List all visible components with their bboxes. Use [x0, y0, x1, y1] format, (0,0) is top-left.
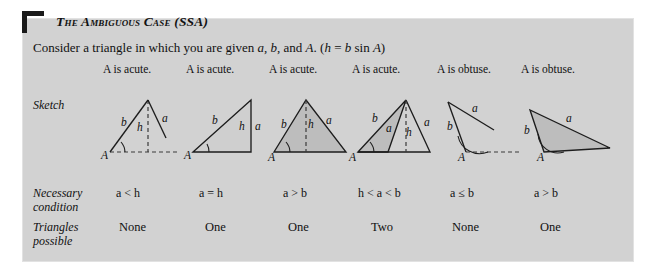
- condition-case-2: a = h: [199, 186, 223, 201]
- case-heading-2: A is acute.: [186, 63, 234, 75]
- side-label-h-2: h: [239, 120, 245, 132]
- case-heading-5: A is obtuse.: [437, 63, 491, 75]
- sketch-case-2: A b h a: [183, 86, 269, 162]
- side-label-b-2: b: [212, 114, 218, 126]
- count-case-4: Two: [371, 220, 393, 235]
- sketch-case-4: A b a h a: [348, 86, 440, 162]
- triangle-body-4-left: [358, 100, 406, 152]
- vertex-label-A-5: A: [457, 151, 466, 163]
- side-label-b-1: b: [121, 116, 127, 128]
- sketch-case-3: A b h a: [264, 86, 354, 162]
- side-label-h-4: h: [406, 126, 412, 138]
- condition-case-4: h < a < b: [358, 186, 401, 201]
- angle-arc-1: [121, 142, 125, 152]
- subtitle-equals: =: [331, 40, 345, 55]
- side-label-a-1: a: [162, 112, 168, 124]
- sketch-case-5: A b a: [434, 86, 524, 162]
- side-label-b-5: b: [447, 120, 453, 132]
- subtitle-lead: Consider a triangle in which you are giv…: [33, 40, 258, 55]
- side-label-a-5: a: [472, 102, 478, 114]
- row-label-necessary-condition: Necessary condition: [33, 186, 82, 214]
- side-label-b-6: b: [524, 124, 530, 136]
- side-label-a1-4: a: [386, 122, 392, 134]
- subtitle-formula-close: ): [381, 40, 385, 55]
- side-a-5: [448, 102, 494, 130]
- row-label-triangles-possible: Triangles possible: [33, 220, 78, 248]
- vertex-label-A-4: A: [348, 151, 357, 163]
- side-label-b-3: b: [281, 118, 287, 130]
- vertex-label-A-6: A: [536, 151, 545, 163]
- condition-case-6: a > b: [534, 186, 558, 201]
- count-case-1: None: [119, 220, 146, 235]
- subtitle-mid: , and: [277, 40, 306, 55]
- row-label-triangles-line2: possible: [33, 234, 78, 248]
- side-label-a-6: a: [566, 112, 572, 124]
- page-title: The Ambiguous Case (SSA): [56, 14, 208, 30]
- case-heading-3: A is acute.: [269, 63, 317, 75]
- vertex-label-A-2: A: [183, 149, 192, 161]
- side-label-a-2: a: [255, 120, 261, 132]
- side-label-a2-4: a: [424, 116, 430, 128]
- vertex-label-A-3: A: [267, 151, 276, 163]
- subtitle: Consider a triangle in which you are giv…: [33, 40, 385, 56]
- corner-bracket-horizontal: [22, 11, 44, 16]
- row-label-necessary-line2: condition: [33, 200, 82, 214]
- side-label-b-4: b: [372, 112, 378, 124]
- subtitle-var-A2: A: [373, 40, 381, 55]
- condition-case-3: a > b: [283, 186, 307, 201]
- count-case-6: One: [540, 220, 561, 235]
- row-label-triangles-line1: Triangles: [33, 220, 78, 234]
- row-label-necessary-line1: Necessary: [33, 186, 82, 200]
- count-case-2: One: [205, 220, 226, 235]
- condition-case-5: a ≤ b: [450, 186, 474, 201]
- corner-bracket-icon: [22, 11, 44, 33]
- case-heading-1: A is acute.: [103, 63, 151, 75]
- subtitle-sin: sin: [351, 40, 373, 55]
- sketch-case-1: A b h a: [100, 86, 186, 162]
- side-label-h-3: h: [308, 118, 314, 130]
- sketch-case-6: A b a: [518, 86, 622, 162]
- subtitle-formula-open: . (: [314, 40, 325, 55]
- vertex-label-A-1: A: [100, 149, 109, 161]
- subtitle-var-A: A: [306, 40, 314, 55]
- case-heading-6: A is obtuse.: [521, 63, 575, 75]
- row-label-sketch: Sketch: [33, 98, 64, 112]
- count-case-5: None: [452, 220, 479, 235]
- side-label-a-3: a: [326, 114, 332, 126]
- condition-case-1: a < h: [116, 186, 140, 201]
- case-heading-4: A is acute.: [352, 63, 400, 75]
- count-case-3: One: [288, 220, 309, 235]
- side-label-h-1: h: [137, 121, 143, 133]
